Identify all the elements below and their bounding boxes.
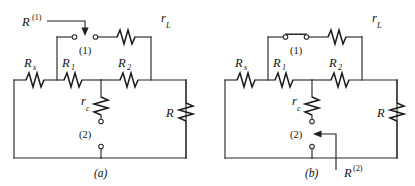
panel-a-caption: (a) [94,167,108,180]
panel-b-resistor-rc-symbol [305,97,319,115]
panel-b-label-R: R [376,106,385,120]
panel-a-label-rL-sub: L [165,21,171,30]
panel-b-label-Rs-base: R [234,56,243,70]
panel-b-label-R2-base: R [328,56,337,70]
panel-b-resistor-R2-symbol [331,73,349,87]
panel-b-callout-arrowhead [313,130,322,137]
panel-a-label-R1-base: R [61,56,70,70]
panel-b-resistor-rL-symbol [328,30,346,44]
panel-b-node1-terminal-left [283,35,288,40]
panel-a-label-R2-sub: 2 [127,63,131,72]
panel-a-resistor-rc-symbol [94,97,108,115]
panel-b-node1-terminal-right [304,35,309,40]
panel-b-label-node1: (1) [290,45,303,57]
panel-b-resistor-Rs-symbol [237,73,255,87]
panel-a-label-R: R [165,106,174,120]
panel-b-label-node2: (2) [290,129,303,141]
panel-a-label-rc-sub: c [86,104,90,113]
panel-b-node2-terminal-upper [310,119,315,124]
panel-a-node1-terminal-left [72,35,77,40]
panel-b-label-R2-sub: 2 [338,63,342,72]
panel-b-label-R1-sub: 1 [282,63,286,72]
panel-b-callout-label-sup: (2) [353,164,363,173]
panel-b-label-rL-sub: L [376,21,382,30]
panel-a-callout-label-sup: (1) [32,13,42,22]
panel-a-label-R2-base: R [117,56,126,70]
panel-a-callout-leader-line [47,21,85,29]
panel-a-resistor-R1-symbol [64,73,82,87]
panel-a-label-Rs-base: R [23,56,32,70]
panel-b-node2-terminal-lower [310,144,315,149]
panel-b-caption: (b) [305,167,319,180]
panel-b-callout-leader-line [320,134,336,170]
panel-a-resistor-rL-symbol [117,30,135,44]
panel-b-label-R1-base: R [272,56,281,70]
panel-a-callout-arrowhead [81,28,88,37]
panel-a-label-R1-sub: 1 [71,63,75,72]
panel-a-node2-terminal-lower [99,144,104,149]
panel-a-node1-terminal-right [93,35,98,40]
panel-a: R (1) r L (1) R s R 1 R 2 r c (2) R (a) [14,11,193,180]
panel-a-callout-label-base: R [21,15,30,29]
panel-b-label-rc-sub: c [297,104,301,113]
figure-root: R (1) r L (1) R s R 1 R 2 r c (2) R (a) [0,0,415,186]
panel-b-resistor-R1-symbol [275,73,293,87]
panel-a-label-node2: (2) [79,129,92,141]
panel-b-label-Rs-sub: s [244,63,247,72]
panel-a-resistor-R2-symbol [120,73,138,87]
panel-a-label-Rs-sub: s [33,63,36,72]
panel-a-node2-terminal-upper [99,119,104,124]
panel-a-resistor-Rs-symbol [26,73,44,87]
panel-b: r L (1) R s R 1 R 2 r c (2) R (b) R (2) [225,11,404,180]
circuit-diagram-svg: R (1) r L (1) R s R 1 R 2 r c (2) R (a) [0,0,415,186]
panel-b-callout-label-base: R [343,166,352,180]
panel-a-label-node1: (1) [79,45,92,57]
